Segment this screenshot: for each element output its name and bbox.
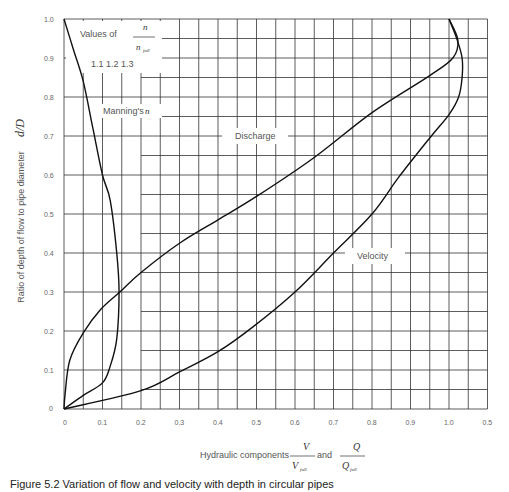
x-tick-label: 0.6 [290,419,300,426]
y-axis-ticks: 00.10.20.30.40.50.60.70.80.91.0 [44,16,54,413]
n-numerator: n [143,22,148,32]
y-tick-label: 0.1 [44,367,54,374]
v-numerator: V [303,441,311,452]
v-denominator: V [292,460,300,471]
n-denominator: n [136,42,141,52]
y-tick-label: 1.0 [44,16,54,23]
y-tick-label: 0.7 [44,133,54,140]
n-values-label: 1.1 1.2 1.3 [91,59,134,69]
y-tick-label: 0.5 [44,211,54,218]
x-tick-label: 0 [63,419,67,426]
chart: 00.10.20.30.40.50.60.70.80.91.00.5 00.10… [0,0,509,492]
y-axis-title-text: Ratio of depth of flow to pipe diameter [16,151,26,303]
y-tick-label: 0.6 [44,172,54,179]
x-axis-title: Hydraulic components V V full and Q Q fu… [200,441,365,472]
values-of-label: Values of [80,29,117,39]
n-denominator-sub: full [143,48,150,53]
mannings-annotation: Manning's n [103,106,150,116]
x-tick-label: 0.4 [213,419,223,426]
y-axis-title-symbol: d/D [13,119,27,137]
y-tick-label: 0.8 [44,94,54,101]
y-tick-label: 0.4 [44,250,54,257]
y-tick-label: 0.3 [44,289,54,296]
x-tick-label: 0.8 [367,419,377,426]
x-tick-label: 0.5 [483,419,493,426]
x-axis-ticks: 00.10.20.30.40.50.60.70.80.91.00.5 [63,419,492,426]
x-tick-label: 0.3 [175,419,185,426]
grid [64,19,488,409]
x-tick-label: 0.5 [252,419,262,426]
x-tick-label: 0.2 [136,419,146,426]
x-tick-label: 0.1 [98,419,108,426]
mannings-symbol: n [145,106,150,116]
x-tick-label: 0.7 [329,419,339,426]
x-tick-label: 0.9 [406,419,416,426]
v-denominator-sub: full [300,467,307,472]
y-tick-label: 0.9 [44,55,54,62]
q-denominator-sub: full [350,467,357,472]
discharge-label: Discharge [235,131,276,141]
x-axis-title-prefix: Hydraulic components [200,450,290,460]
q-denominator: Q [342,460,350,471]
mannings-label: Manning's [103,106,144,116]
y-tick-label: 0.2 [44,328,54,335]
y-tick-label: 0 [49,405,53,412]
x-axis-title-and: and [317,450,332,460]
label-masks [66,21,405,264]
figure-caption: Figure 5.2 Variation of flow and velocit… [10,478,334,490]
velocity-label: Velocity [357,251,389,261]
y-axis-title: Ratio of depth of flow to pipe diameter … [13,119,27,303]
x-tick-label: 1.0 [444,419,454,426]
q-numerator: Q [353,441,361,452]
